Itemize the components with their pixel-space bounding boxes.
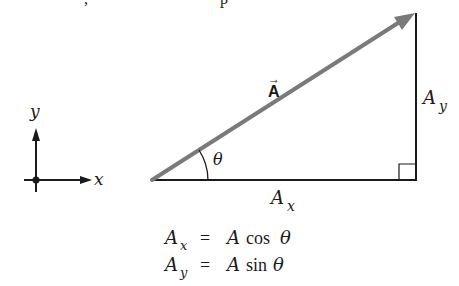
eq1-fn: cos bbox=[246, 228, 270, 248]
x-component-base: A bbox=[269, 187, 284, 208]
x-axis-label: x bbox=[94, 169, 104, 189]
right-angle-marker bbox=[399, 164, 416, 180]
y-component-sub: y bbox=[438, 98, 448, 114]
eq2-equals: = bbox=[200, 255, 210, 275]
eq2-arg: θ bbox=[273, 254, 284, 275]
vector-arrowhead-icon bbox=[394, 13, 415, 30]
equation-ax: A x = A cos θ bbox=[163, 227, 291, 253]
coordinate-axes bbox=[24, 128, 92, 192]
x-axis-arrow-icon bbox=[80, 176, 92, 184]
eq2-sub: y bbox=[179, 265, 188, 280]
y-component-label: A y bbox=[421, 87, 448, 114]
eq1-arg: θ bbox=[280, 227, 291, 248]
y-axis-arrow-icon bbox=[32, 128, 40, 141]
cropped-text-fragment: , bbox=[84, 0, 88, 7]
vector-components-diagram: , p x y θ A → A x A y A x = A cos θ A y bbox=[0, 0, 459, 286]
eq2-rhs-a: A bbox=[225, 254, 240, 275]
equation-ay: A y = A sin θ bbox=[163, 254, 284, 280]
eq2-lhs: A bbox=[163, 254, 178, 275]
vector-a-line bbox=[152, 23, 398, 180]
x-component-sub: x bbox=[287, 198, 295, 214]
origin-dot bbox=[33, 177, 40, 184]
eq1-sub: x bbox=[180, 238, 188, 253]
y-component-base: A bbox=[421, 87, 436, 108]
eq1-equals: = bbox=[200, 228, 210, 248]
eq2-fn: sin bbox=[246, 255, 267, 275]
cropped-text-fragment: p bbox=[220, 0, 228, 8]
angle-label: θ bbox=[213, 150, 223, 169]
angle-arc bbox=[199, 150, 208, 180]
vector-arrow-icon: → bbox=[268, 72, 280, 86]
eq1-lhs: A bbox=[163, 227, 178, 248]
x-component-label: A x bbox=[269, 187, 295, 214]
eq1-rhs-a: A bbox=[225, 227, 240, 248]
y-axis-label: y bbox=[29, 101, 40, 121]
